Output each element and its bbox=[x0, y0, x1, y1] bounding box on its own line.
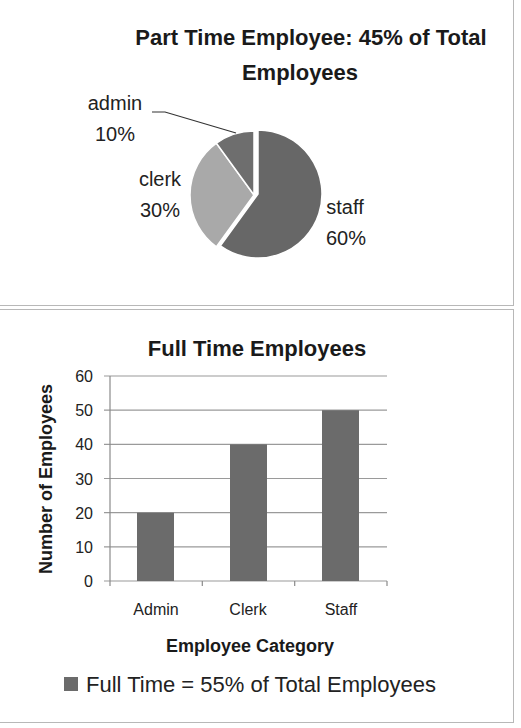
x-axis-title: Employee Category bbox=[166, 636, 334, 656]
pie-label-staff-name: staff bbox=[326, 196, 364, 218]
pie-chart-title-line1: Part Time Employee: 45% of Total bbox=[135, 25, 486, 50]
pie-chart-panel: Part Time Employee: 45% of Total Employe… bbox=[0, 0, 514, 306]
x-label-staff: Staff bbox=[325, 601, 358, 618]
pie-label-admin-name: admin bbox=[88, 92, 142, 114]
admin-leader-line bbox=[152, 112, 236, 133]
y-tick-0: 0 bbox=[84, 573, 93, 590]
y-tick-30: 30 bbox=[75, 471, 93, 488]
pie-label-clerk-name: clerk bbox=[139, 168, 182, 190]
legend-label: Full Time = 55% of Total Employees bbox=[86, 672, 436, 697]
pie-label-staff-pct: 60% bbox=[326, 227, 366, 249]
y-tick-40: 40 bbox=[75, 436, 93, 453]
y-tick-10: 10 bbox=[75, 539, 93, 556]
pie-label-admin-pct: 10% bbox=[95, 123, 135, 145]
y-axis-title: Number of Employees bbox=[36, 384, 56, 574]
pie-chart: Part Time Employee: 45% of Total Employe… bbox=[0, 0, 514, 306]
bar-admin[interactable] bbox=[137, 513, 174, 581]
bar-staff[interactable] bbox=[322, 410, 359, 581]
bar-chart: Full Time Employees 0 10 20 30 bbox=[0, 310, 514, 724]
x-label-clerk: Clerk bbox=[229, 601, 267, 618]
bar-chart-title: Full Time Employees bbox=[148, 336, 366, 361]
bar-clerk[interactable] bbox=[230, 444, 267, 581]
y-tick-60: 60 bbox=[75, 368, 93, 385]
x-axis-ticks bbox=[110, 581, 387, 586]
y-tick-labels: 0 10 20 30 40 50 60 bbox=[75, 368, 93, 590]
x-label-admin: Admin bbox=[133, 601, 178, 618]
pie-chart-title-line2: Employees bbox=[242, 60, 358, 85]
legend-swatch bbox=[64, 677, 78, 691]
y-tick-50: 50 bbox=[75, 402, 93, 419]
y-tick-20: 20 bbox=[75, 505, 93, 522]
bar-chart-panel: Full Time Employees 0 10 20 30 bbox=[0, 309, 514, 723]
pie-label-clerk-pct: 30% bbox=[140, 199, 180, 221]
